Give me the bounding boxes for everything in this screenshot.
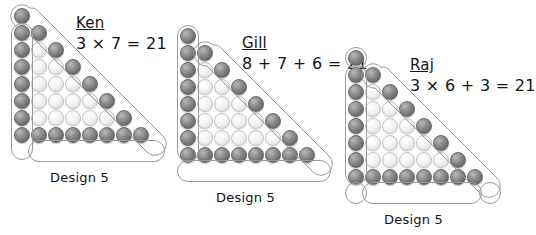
dot-highlighted bbox=[348, 118, 364, 134]
raj-bottom-left-corner-dot-group bbox=[345, 182, 367, 204]
dot-highlighted bbox=[450, 169, 466, 185]
dot-plain bbox=[214, 79, 230, 95]
dot-plain bbox=[214, 130, 230, 146]
dot-plain bbox=[433, 152, 449, 168]
dot-plain bbox=[231, 96, 247, 112]
dot-plain bbox=[365, 84, 381, 100]
dot-highlighted bbox=[14, 59, 30, 75]
dot-highlighted bbox=[348, 67, 364, 83]
dot-plain bbox=[31, 42, 47, 58]
figure-gill-name: Gill bbox=[242, 34, 267, 52]
dot-highlighted bbox=[348, 135, 364, 151]
dot-highlighted bbox=[99, 93, 115, 109]
raj-bottom-right-corner-dot-group bbox=[479, 182, 501, 204]
dot-plain bbox=[248, 130, 264, 146]
dot-highlighted bbox=[180, 28, 196, 44]
dot-highlighted bbox=[116, 110, 132, 126]
dot-highlighted bbox=[399, 101, 415, 117]
dot-plain bbox=[265, 130, 281, 146]
figure-raj-expression: 3 × 6 + 3 = 21 bbox=[410, 76, 536, 95]
dot-plain bbox=[399, 152, 415, 168]
dot-plain bbox=[214, 96, 230, 112]
dot-highlighted bbox=[348, 50, 364, 66]
dot-plain bbox=[399, 118, 415, 134]
dot-highlighted bbox=[14, 8, 30, 24]
dot-plain bbox=[48, 93, 64, 109]
dot-highlighted bbox=[365, 169, 381, 185]
dot-plain bbox=[48, 59, 64, 75]
ken-bottom-row-group bbox=[28, 140, 165, 162]
figure-gill: Gill 8 + 7 + 6 = 21 Design 5 bbox=[180, 28, 330, 213]
dot-highlighted bbox=[116, 127, 132, 143]
dot-highlighted bbox=[265, 113, 281, 129]
dot-plain bbox=[416, 135, 432, 151]
dot-highlighted bbox=[399, 169, 415, 185]
dot-plain bbox=[65, 93, 81, 109]
dot-plain bbox=[197, 96, 213, 112]
dot-highlighted bbox=[180, 45, 196, 61]
dot-plain bbox=[365, 118, 381, 134]
dot-plain bbox=[214, 113, 230, 129]
figure-ken: Ken 3 × 7 = 21 Design 5 bbox=[14, 8, 164, 193]
dot-highlighted bbox=[82, 76, 98, 92]
dot-highlighted bbox=[82, 127, 98, 143]
dot-highlighted bbox=[14, 127, 30, 143]
dot-plain bbox=[197, 79, 213, 95]
dot-plain bbox=[399, 135, 415, 151]
dot-plain bbox=[231, 113, 247, 129]
dot-highlighted bbox=[65, 59, 81, 75]
dot-plain bbox=[31, 76, 47, 92]
dot-plain bbox=[416, 152, 432, 168]
dot-highlighted bbox=[348, 84, 364, 100]
dot-highlighted bbox=[433, 169, 449, 185]
dot-highlighted bbox=[197, 147, 213, 163]
figure-ken-name: Ken bbox=[76, 14, 104, 32]
figure-ken-expression: 3 × 7 = 21 bbox=[76, 34, 167, 53]
dot-highlighted bbox=[133, 127, 149, 143]
dot-plain bbox=[382, 152, 398, 168]
dot-plain bbox=[99, 110, 115, 126]
dot-highlighted bbox=[14, 110, 30, 126]
figure-raj-caption: Design 5 bbox=[384, 212, 443, 227]
dot-plain bbox=[365, 152, 381, 168]
dot-highlighted bbox=[180, 113, 196, 129]
dot-plain bbox=[382, 135, 398, 151]
dot-plain bbox=[248, 113, 264, 129]
dot-plain bbox=[65, 76, 81, 92]
dot-highlighted bbox=[248, 147, 264, 163]
dot-plain bbox=[382, 101, 398, 117]
dot-highlighted bbox=[65, 127, 81, 143]
figure-gill-caption: Design 5 bbox=[216, 190, 275, 205]
dot-highlighted bbox=[382, 84, 398, 100]
dot-highlighted bbox=[299, 147, 315, 163]
dot-plain bbox=[82, 110, 98, 126]
dot-highlighted bbox=[180, 130, 196, 146]
dot-highlighted bbox=[31, 25, 47, 41]
dot-highlighted bbox=[450, 152, 466, 168]
dot-plain bbox=[382, 118, 398, 134]
dot-plain bbox=[48, 76, 64, 92]
dot-plain bbox=[197, 130, 213, 146]
dot-highlighted bbox=[14, 93, 30, 109]
dot-highlighted bbox=[467, 169, 483, 185]
dot-highlighted bbox=[248, 96, 264, 112]
dot-plain bbox=[197, 113, 213, 129]
dot-highlighted bbox=[197, 45, 213, 61]
dot-plain bbox=[82, 93, 98, 109]
dot-highlighted bbox=[348, 101, 364, 117]
figure-ken-caption: Design 5 bbox=[50, 170, 109, 185]
dot-plain bbox=[31, 110, 47, 126]
figure-raj: Raj 3 × 6 + 3 = 21 Design 5 bbox=[348, 50, 508, 235]
dot-highlighted bbox=[99, 127, 115, 143]
dot-plain bbox=[31, 59, 47, 75]
dot-highlighted bbox=[282, 147, 298, 163]
dot-highlighted bbox=[265, 147, 281, 163]
dot-highlighted bbox=[231, 147, 247, 163]
dot-plain bbox=[365, 101, 381, 117]
dot-highlighted bbox=[282, 130, 298, 146]
figure-raj-name: Raj bbox=[410, 56, 434, 74]
dot-highlighted bbox=[382, 169, 398, 185]
dot-highlighted bbox=[180, 96, 196, 112]
dot-highlighted bbox=[14, 42, 30, 58]
